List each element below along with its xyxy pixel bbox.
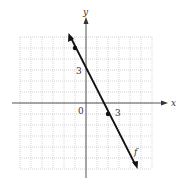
x-axis-label: x — [171, 98, 176, 108]
point-2-neg1 — [106, 112, 110, 116]
y-tick-label: 3 — [76, 66, 82, 76]
x-axis-arrow-icon — [161, 101, 168, 106]
y-axis-arrow-icon — [84, 17, 89, 24]
x-tick-label: 3 — [115, 108, 121, 118]
y-axis-label: y — [82, 7, 89, 17]
origin-label: 0 — [78, 106, 84, 116]
function-line-f — [71, 37, 136, 165]
function-label: f — [133, 147, 139, 157]
function-graph: x y 0 3 3 f — [0, 0, 181, 184]
line-arrow-bottom-icon — [132, 161, 138, 169]
point-neg1-5 — [73, 46, 77, 50]
